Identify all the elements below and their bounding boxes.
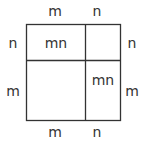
left-label-n: n [9, 35, 18, 51]
left-label-m: m [6, 83, 20, 99]
top-label-m: m [48, 3, 62, 19]
cell-bottom-right: mn [92, 72, 115, 88]
right-label-m: m [125, 83, 139, 99]
cell-top-left: mn [45, 35, 68, 51]
top-label-n: n [93, 3, 102, 19]
right-label-n: n [128, 35, 137, 51]
bottom-label-n: n [93, 124, 102, 140]
bottom-label-m: m [48, 124, 62, 140]
square-diagram: m n m n n m n m mn mn [0, 0, 144, 149]
